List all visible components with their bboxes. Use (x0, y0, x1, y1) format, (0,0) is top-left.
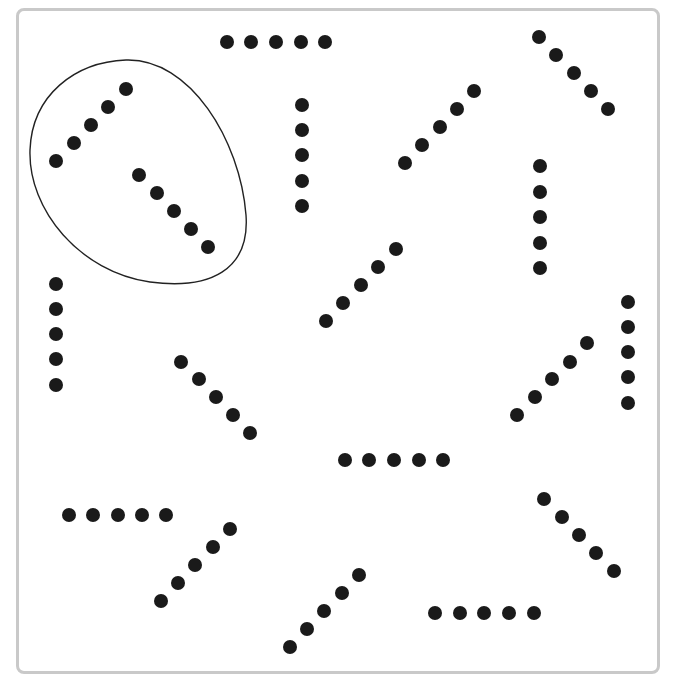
dot-group-horizontal (220, 35, 332, 49)
dot-group-diagonal-up (154, 522, 237, 608)
dot (533, 236, 547, 250)
dot (226, 408, 240, 422)
dot (49, 327, 63, 341)
dot (62, 508, 76, 522)
dot (589, 546, 603, 560)
dot (295, 123, 309, 137)
dot-group-vertical (533, 159, 547, 275)
dot (584, 84, 598, 98)
dot (135, 508, 149, 522)
dot (223, 522, 237, 536)
dot (354, 278, 368, 292)
dot (150, 186, 164, 200)
dot (467, 84, 481, 98)
dot (49, 277, 63, 291)
dot (67, 136, 81, 150)
dot (174, 355, 188, 369)
dot (607, 564, 621, 578)
dot-group-vertical (295, 98, 309, 213)
dot (154, 594, 168, 608)
dot-group-diagonal-up (510, 336, 594, 422)
dot-group-horizontal (62, 508, 173, 522)
dot (318, 35, 332, 49)
dot (319, 314, 333, 328)
dot (335, 586, 349, 600)
dot-group-diagonal-up (283, 568, 366, 654)
dot (567, 66, 581, 80)
dot-group-diagonal-up (398, 84, 481, 170)
dot (502, 606, 516, 620)
dot (450, 102, 464, 116)
dot-group-diagonal-down-encircled (132, 168, 215, 254)
dot (336, 296, 350, 310)
dot (206, 540, 220, 554)
dot (171, 576, 185, 590)
dot (220, 35, 234, 49)
dot (389, 242, 403, 256)
dot (621, 295, 635, 309)
dot (387, 453, 401, 467)
dot (621, 396, 635, 410)
dot (49, 352, 63, 366)
dot-group-diagonal-down (174, 355, 257, 440)
dot (159, 508, 173, 522)
dot (188, 558, 202, 572)
dot (528, 390, 542, 404)
dot (533, 210, 547, 224)
dot (295, 98, 309, 112)
dot (477, 606, 491, 620)
dot (295, 174, 309, 188)
dot (362, 453, 376, 467)
dot (167, 204, 181, 218)
dot (119, 82, 133, 96)
dot (132, 168, 146, 182)
dot (294, 35, 308, 49)
dot (49, 302, 63, 316)
dot (549, 48, 563, 62)
dot (580, 336, 594, 350)
dot-group-horizontal (428, 606, 541, 620)
dot-group-diagonal-down (537, 492, 621, 578)
dot (244, 35, 258, 49)
dot (621, 345, 635, 359)
dot (295, 148, 309, 162)
dot-group-diagonal-up-encircled (49, 82, 133, 168)
dot (415, 138, 429, 152)
dot (49, 154, 63, 168)
dot (201, 240, 215, 254)
dot (621, 370, 635, 384)
dot (371, 260, 385, 274)
dot (537, 492, 551, 506)
dot-groups (49, 30, 635, 654)
dot (428, 606, 442, 620)
dot (572, 528, 586, 542)
dot-group-diagonal-up (319, 242, 403, 328)
dot (527, 606, 541, 620)
dot-group-horizontal (338, 453, 450, 467)
dot (283, 640, 297, 654)
dot (338, 453, 352, 467)
dot (436, 453, 450, 467)
dot (433, 120, 447, 134)
dot (269, 35, 283, 49)
dot (412, 453, 426, 467)
dot (555, 510, 569, 524)
dot (101, 100, 115, 114)
dot (453, 606, 467, 620)
dot (209, 390, 223, 404)
dot (84, 118, 98, 132)
dot (243, 426, 257, 440)
dot (192, 372, 206, 386)
dot (300, 622, 314, 636)
dot (295, 199, 309, 213)
dot (86, 508, 100, 522)
dot (601, 102, 615, 116)
dot (563, 355, 577, 369)
dot (510, 408, 524, 422)
dot (184, 222, 198, 236)
dot (533, 185, 547, 199)
dot-group-vertical (49, 277, 63, 392)
dot (317, 604, 331, 618)
dot (545, 372, 559, 386)
dot (621, 320, 635, 334)
